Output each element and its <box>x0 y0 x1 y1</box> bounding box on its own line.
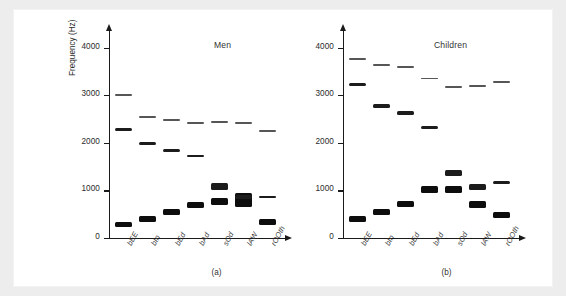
y-tick: 1000 <box>104 190 110 191</box>
formant-bar-f2 <box>493 181 510 184</box>
y-tick-label: 2000 <box>81 137 100 146</box>
y-tick: 2000 <box>338 143 344 144</box>
y-tick-label: 4000 <box>81 42 100 51</box>
formant-bar-f3 <box>235 122 252 124</box>
vowel-column: lAW <box>235 38 259 238</box>
formant-bar-f1 <box>187 202 204 208</box>
y-tick-label: 3000 <box>315 89 334 98</box>
formant-bar-f3 <box>469 85 486 87</box>
x-axis-arrow-icon <box>519 235 526 241</box>
formant-bar-f3 <box>373 64 390 66</box>
formant-bar-f2 <box>421 126 438 130</box>
y-tick: 1000 <box>338 190 344 191</box>
vowel-column: sOd <box>211 38 235 238</box>
formant-bar-f2 <box>373 104 390 107</box>
formant-bar-f2 <box>397 111 414 115</box>
y-tick-label: 0 <box>95 232 100 241</box>
formant-bar-f1 <box>349 216 366 222</box>
formant-bar-f1 <box>397 201 414 207</box>
x-tick-label: bIn <box>383 233 396 247</box>
y-tick-label: 3000 <box>81 89 100 98</box>
formant-bar-f3 <box>349 58 366 60</box>
formant-bar-f2 <box>235 195 252 199</box>
figure-frame: Frequency (Hz) Men 01000200030004000 bEE… <box>0 0 566 296</box>
vowel-column: bEd <box>397 38 421 238</box>
y-tick-label: 1000 <box>81 184 100 193</box>
vowel-column: rOOth <box>493 38 517 238</box>
formant-bar-f2 <box>211 183 228 189</box>
formant-bar-f1 <box>259 219 276 225</box>
y-axis-line <box>343 29 344 238</box>
x-tick-label: lAW <box>479 231 494 248</box>
vowel-column: bAd <box>187 38 211 238</box>
vowel-column: lAW <box>469 38 493 238</box>
formant-bar-f1 <box>445 186 462 193</box>
figure-plate: Frequency (Hz) Men 01000200030004000 bEE… <box>14 10 552 286</box>
y-tick-label: 1000 <box>315 184 334 193</box>
formant-bar-f3 <box>397 66 414 68</box>
formant-bar-f1 <box>373 209 390 215</box>
vowel-column: bIn <box>373 38 397 238</box>
panel-caption-b: (b) <box>296 268 566 277</box>
plot-area-children: 01000200030004000 bEEbInbEdbAdsOdlAWrOOt… <box>343 38 511 238</box>
formant-bar-f2 <box>469 184 486 190</box>
formant-bar-f3 <box>139 116 156 118</box>
x-tick-label: bIn <box>149 233 162 247</box>
panel-children: Children 01000200030004000 bEEbInbEdbAds… <box>296 10 561 286</box>
vowel-column: bEE <box>115 38 139 238</box>
vowel-column: bEE <box>349 38 373 238</box>
y-axis-line <box>109 29 110 238</box>
formant-bar-f2 <box>163 149 180 152</box>
x-tick-label: bAd <box>197 231 211 247</box>
formant-bar-f3 <box>115 94 132 96</box>
x-tick-label: lAW <box>245 231 260 248</box>
y-tick: 3000 <box>338 95 344 96</box>
y-tick: 4000 <box>104 48 110 49</box>
formant-bar-f1 <box>163 209 180 214</box>
formant-bar-f1 <box>115 222 132 227</box>
y-tick-label: 4000 <box>315 42 334 51</box>
formant-bar-f2 <box>115 128 132 131</box>
y-tick: 3000 <box>104 95 110 96</box>
formant-bar-f2 <box>259 196 276 198</box>
y-tick-label: 2000 <box>315 137 334 146</box>
y-tick: 4000 <box>338 48 344 49</box>
formant-bar-f3 <box>259 130 276 132</box>
formant-bar-f1 <box>421 186 438 193</box>
formant-bar-f3 <box>163 119 180 121</box>
vowel-column: sOd <box>445 38 469 238</box>
formant-bar-f2 <box>445 170 462 176</box>
formant-bar-f1 <box>211 198 228 205</box>
formant-bar-f3 <box>421 78 438 80</box>
y-tick: 2000 <box>104 143 110 144</box>
y-tick: 0 <box>104 238 110 239</box>
formant-bar-f2 <box>139 142 156 145</box>
formant-bar-f3 <box>493 81 510 83</box>
formant-bar-f1 <box>469 201 486 208</box>
x-tick-label: bAd <box>431 231 445 247</box>
vowel-column: rOOth <box>259 38 283 238</box>
formant-bar-f1 <box>493 212 510 218</box>
y-tick: 0 <box>338 238 344 239</box>
formant-bar-f3 <box>445 86 462 88</box>
x-tick-label: bEd <box>173 231 187 247</box>
panel-men: Frequency (Hz) Men 01000200030004000 bEE… <box>62 10 327 286</box>
formant-bar-f3 <box>187 122 204 124</box>
y-tick-label: 0 <box>329 232 334 241</box>
plot-area-men: 01000200030004000 bEEbInbEdbAdsOdlAWrOOt… <box>109 38 277 238</box>
formant-bar-f2 <box>187 155 204 158</box>
x-axis-arrow-icon <box>285 235 292 241</box>
vowel-column: bIn <box>139 38 163 238</box>
y-axis-arrow-icon <box>340 24 346 31</box>
formant-bar-f2 <box>349 83 366 86</box>
vowel-column: bEd <box>163 38 187 238</box>
formant-bar-f1 <box>139 216 156 222</box>
y-axis-arrow-icon <box>106 24 112 31</box>
x-tick-label: bEd <box>407 231 421 247</box>
vowel-column: bAd <box>421 38 445 238</box>
formant-bar-f3 <box>211 121 228 123</box>
